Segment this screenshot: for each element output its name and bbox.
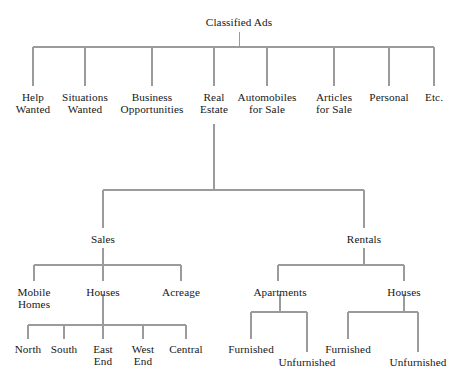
node-label: Unfurnished	[278, 356, 335, 368]
node-label-line2: Estate	[200, 103, 228, 115]
node-label-line2: Wanted	[16, 103, 51, 115]
node-label-line2: End	[132, 355, 155, 367]
node-rentals: Rentals	[347, 233, 381, 245]
node-south: South	[51, 343, 78, 355]
node-label-line2: for Sale	[238, 103, 297, 115]
node-automobiles-for-sale: Automobiles for Sale	[238, 91, 297, 116]
node-label-line1: Acreage	[162, 286, 200, 298]
node-label-line1: Business	[132, 91, 173, 103]
node-label-line2: Homes	[18, 298, 51, 310]
node-label: Sales	[91, 233, 115, 245]
node-real-estate: Real Estate	[200, 91, 228, 116]
node-label-line1: Personal	[369, 91, 408, 103]
node-label-line1: Houses	[86, 286, 120, 298]
node-articles-for-sale: Articles for Sale	[316, 91, 352, 116]
node-business-opportunities: Business Opportunities	[121, 91, 184, 116]
node-classified-ads: Classified Ads	[206, 16, 272, 28]
node-label-line1: West	[132, 343, 155, 355]
node-sales: Sales	[91, 233, 115, 245]
node-label-line1: East	[93, 343, 113, 355]
node-west-end: West End	[132, 343, 155, 368]
node-label-line2: for Sale	[316, 103, 352, 115]
node-help-wanted: Help Wanted	[16, 91, 51, 116]
node-personal: Personal	[369, 91, 408, 103]
node-label-line1: South	[51, 343, 78, 355]
node-label: Rentals	[347, 233, 381, 245]
node-label-line2: Wanted	[62, 103, 108, 115]
classified-ads-tree-diagram: Classified Ads Help Wanted Situations Wa…	[0, 0, 467, 379]
node-apartments-unfurnished: Unfurnished	[278, 356, 335, 368]
node-label-line2: End	[93, 355, 113, 367]
node-mobile-homes: Mobile Homes	[18, 286, 51, 311]
node-apartments: Apartments	[253, 286, 306, 298]
node-label-line1: Help	[22, 91, 44, 103]
node-label-line1: Real	[204, 91, 225, 103]
node-acreage: Acreage	[162, 286, 200, 298]
node-label: Houses	[387, 286, 421, 298]
tree-connector-lines	[0, 0, 467, 379]
node-rental-houses-unfurnished: Unfurnished	[389, 356, 446, 368]
node-situations-wanted: Situations Wanted	[62, 91, 108, 116]
node-central: Central	[169, 343, 203, 355]
node-label: Unfurnished	[389, 356, 446, 368]
node-apartments-furnished: Furnished	[228, 343, 274, 355]
node-label: Furnished	[325, 343, 371, 355]
node-label: Furnished	[228, 343, 274, 355]
node-label-line1: Central	[169, 343, 203, 355]
node-label: Apartments	[253, 286, 306, 298]
node-etc: Etc.	[425, 91, 443, 103]
node-houses-for-sale: Houses	[86, 286, 120, 298]
node-label-line1: North	[15, 343, 42, 355]
node-label-line1: Automobiles	[238, 91, 297, 103]
node-label-line1: Mobile	[18, 286, 51, 298]
node-label-line1: Etc.	[425, 91, 443, 103]
node-north: North	[15, 343, 42, 355]
node-label: Classified Ads	[206, 16, 272, 28]
node-label-line1: Situations	[62, 91, 108, 103]
node-label-line1: Articles	[316, 91, 352, 103]
node-houses-rental: Houses	[387, 286, 421, 298]
node-label-line2: Opportunities	[121, 103, 184, 115]
node-rental-houses-furnished: Furnished	[325, 343, 371, 355]
node-east-end: East End	[93, 343, 113, 368]
